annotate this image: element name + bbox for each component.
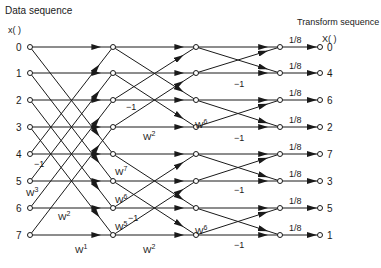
twiddle-factor-label: W3 — [26, 186, 39, 198]
label: −1 — [126, 102, 136, 112]
arrow-icon — [259, 67, 263, 68]
fft-butterfly-diagram: Data sequence Transform sequence x( ) X(… — [0, 0, 381, 268]
arrow-icon — [175, 84, 179, 87]
label: 5 — [327, 203, 333, 214]
node — [28, 71, 33, 76]
twiddle-labels: 1/81/81/81/81/81/81/81/80123456704627351… — [16, 35, 333, 255]
label: 1/8 — [289, 88, 302, 98]
arrow-icon — [92, 122, 96, 127]
label: 3 — [327, 176, 333, 187]
butterfly-edges — [30, 47, 320, 235]
node — [111, 233, 116, 238]
data-sequence-title: Data sequence — [5, 5, 73, 16]
arrow-icon — [175, 58, 179, 61]
twiddle-factor-label: W6 — [195, 224, 208, 236]
label: −1 — [234, 240, 244, 250]
arrow-icon — [259, 105, 263, 106]
node — [318, 45, 323, 50]
label: 1/8 — [289, 142, 302, 152]
node — [318, 152, 323, 157]
label: 7 — [327, 149, 333, 160]
label: −1 — [234, 133, 244, 143]
twiddle-factor-label: W6 — [195, 118, 208, 130]
node — [194, 206, 199, 211]
arrow-icon — [259, 174, 263, 175]
label: 1/8 — [289, 35, 302, 45]
arrow-icon — [92, 208, 96, 213]
node — [278, 98, 283, 103]
node — [194, 152, 199, 157]
node — [278, 233, 283, 238]
label: 1/8 — [289, 169, 302, 179]
node — [111, 152, 116, 157]
twiddle-factor-label: W2 — [143, 243, 156, 255]
arrow-icon — [259, 52, 263, 53]
transform-sequence-title: Transform sequence — [297, 17, 379, 27]
node — [278, 206, 283, 211]
label: 2 — [16, 95, 22, 106]
node — [111, 98, 116, 103]
node — [194, 45, 199, 50]
arrow-icon — [175, 195, 179, 198]
node — [111, 45, 116, 50]
label: 6 — [16, 203, 22, 214]
label: 5 — [16, 176, 22, 187]
label: 0 — [16, 42, 22, 53]
arrow-icon — [175, 87, 179, 90]
node — [278, 71, 283, 76]
label: 4 — [16, 149, 22, 160]
arrow-icon — [259, 159, 263, 160]
arrow-icon — [92, 181, 96, 186]
node — [28, 233, 33, 238]
label: 4 — [327, 68, 333, 79]
label: 1/8 — [289, 196, 302, 206]
node — [194, 98, 199, 103]
node — [194, 179, 199, 184]
twiddle-factor-label: W1 — [75, 243, 88, 255]
node — [318, 125, 323, 130]
twiddle-factor-label: W2 — [143, 130, 156, 142]
label: 6 — [327, 95, 333, 106]
node — [278, 179, 283, 184]
label: 3 — [16, 122, 22, 133]
node — [318, 206, 323, 211]
arrow-icon — [92, 95, 96, 100]
twiddle-factor-label: W5 — [115, 220, 128, 232]
label: −1 — [234, 185, 244, 195]
twiddle-factor-label: W7 — [115, 165, 128, 177]
arrow-icon — [175, 222, 179, 225]
node — [111, 125, 116, 130]
label: 0 — [327, 42, 333, 53]
label: 2 — [327, 122, 333, 133]
input-header: x( ) — [8, 25, 21, 35]
label: 1 — [327, 230, 333, 241]
node — [318, 179, 323, 184]
label: 1/8 — [289, 61, 302, 71]
node — [111, 206, 116, 211]
node — [111, 71, 116, 76]
node — [318, 71, 323, 76]
twiddle-factor-label: W2 — [58, 210, 71, 222]
node — [194, 71, 199, 76]
arrow-icon — [175, 165, 179, 168]
arrow-icon — [175, 114, 179, 117]
arrow-icon — [175, 192, 179, 195]
node — [28, 152, 33, 157]
node — [28, 98, 33, 103]
arrow-icon — [259, 213, 263, 214]
node — [28, 125, 33, 130]
node — [28, 45, 33, 50]
label: 1 — [16, 68, 22, 79]
label: −1 — [34, 159, 44, 169]
node — [318, 233, 323, 238]
node — [278, 152, 283, 157]
label: 1/8 — [289, 115, 302, 125]
node — [318, 98, 323, 103]
node — [278, 125, 283, 130]
label: −1 — [234, 79, 244, 89]
arrow-icon — [92, 127, 96, 132]
node — [28, 179, 33, 184]
node — [111, 179, 116, 184]
arrow-icon — [259, 120, 263, 121]
label: 7 — [16, 230, 22, 241]
